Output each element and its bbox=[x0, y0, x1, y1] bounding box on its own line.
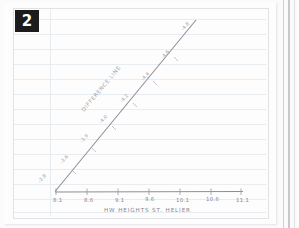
x-tick-label-0: 8.1 bbox=[53, 197, 62, 203]
x-tick-label-1: 8.6 bbox=[84, 197, 94, 203]
difference-line bbox=[55, 20, 196, 192]
point-label-4: -4.2 bbox=[119, 93, 129, 104]
x-tick-label-6: 11.1 bbox=[236, 197, 249, 203]
handwritten-graph: 8.1 8.6 9.1 9.6 10.1 10.6 11.1 HW HEIGHT… bbox=[0, 0, 299, 228]
x-tick-label-5: 10.6 bbox=[206, 196, 219, 202]
point-label-1: -3.6 bbox=[59, 154, 69, 165]
point-label-7: -4.8 bbox=[180, 21, 190, 32]
x-tick-label-4: 10.1 bbox=[176, 197, 189, 203]
x-tick-label-3: 9.6 bbox=[145, 196, 155, 202]
scanned-page: 2 8.1 8.6 9.1 9.6 10.1 10.6 11.1 HW HEIG… bbox=[0, 0, 299, 228]
point-label-6: -4.6 bbox=[160, 49, 170, 60]
point-label-5: -4.4 bbox=[140, 71, 150, 82]
point-label-2: -3.9 bbox=[79, 133, 89, 144]
x-axis-title: HW HEIGHTS ST. HELIER bbox=[104, 207, 191, 213]
point-label-3: -4.0 bbox=[98, 114, 108, 125]
difference-line-label: DIFFERENCE LINE bbox=[80, 64, 122, 112]
point-annotations: -2.8 -3.6 -3.9 -4.0 -4.2 -4.4 -4.6 -4.8 bbox=[37, 21, 190, 184]
data-point-marks bbox=[72, 57, 178, 174]
x-tick-label-2: 9.1 bbox=[115, 197, 124, 203]
point-label-0: -2.8 bbox=[37, 173, 47, 184]
